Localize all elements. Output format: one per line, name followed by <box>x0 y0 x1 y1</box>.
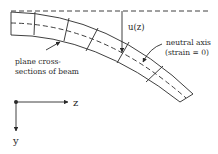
cross-section-leader <box>46 42 60 50</box>
neutral-axis-note: (strain = 0) <box>165 48 209 57</box>
cross-section-label: plane cross- <box>15 57 61 66</box>
y-axis-label: y <box>12 135 19 146</box>
beam-bending-diagram: u(z) neutral axis (strain = 0) plane cro… <box>0 0 218 154</box>
beam-right-end <box>180 94 193 102</box>
neutral-axis-leader <box>143 44 162 62</box>
cross-section-label-2: sections of beam <box>15 67 79 76</box>
neutral-axis-label: neutral axis <box>166 38 211 47</box>
deflection-label: u(z) <box>128 22 145 32</box>
z-axis-label: z <box>73 97 78 108</box>
